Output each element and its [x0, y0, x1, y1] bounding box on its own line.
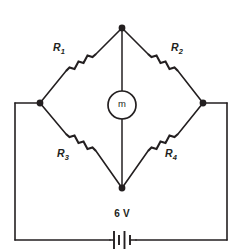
- resistor-label-r3: R3: [57, 148, 68, 159]
- wire-r1-to-left: [40, 71, 66, 103]
- wire-r3-to-bottom: [96, 151, 122, 188]
- resistor-symbol-r1: [66, 54, 96, 71]
- battery-voltage-label: 6 V: [102, 209, 142, 219]
- resistor-label-r2-base: R: [171, 41, 178, 53]
- node-dot-right: [200, 100, 207, 107]
- resistor-label-r3-subscript: 3: [65, 153, 69, 162]
- resistor-label-r3-base: R: [57, 147, 64, 159]
- resistor-label-r2-subscript: 2: [179, 47, 183, 56]
- resistor-label-r1-base: R: [53, 41, 60, 53]
- wire-left-to-r3: [40, 103, 66, 134]
- wire-r2-to-right: [178, 71, 203, 103]
- resistor-label-r4-base: R: [165, 147, 172, 159]
- wire-top-to-r2: [122, 28, 148, 54]
- resistor-symbol-r3: [66, 134, 96, 151]
- resistor-label-r1-subscript: 1: [61, 47, 65, 56]
- meter-label: m: [113, 99, 131, 109]
- resistor-label-r4: R4: [165, 148, 176, 159]
- node-dot-top: [119, 25, 126, 32]
- node-dot-bottom: [119, 185, 126, 192]
- wire-right-to-r4: [178, 103, 203, 134]
- resistor-symbol-r2: [148, 54, 178, 71]
- resistor-label-r2: R2: [171, 42, 182, 53]
- resistor-label-r1: R1: [53, 42, 64, 53]
- wire-top-to-r1: [96, 28, 122, 54]
- resistor-label-r4-subscript: 4: [173, 153, 177, 162]
- wire-r4-to-bottom: [122, 151, 148, 188]
- wheatstone-bridge-diagram: R1 R2 R3 R4 m 6 V: [0, 0, 242, 251]
- node-dot-left: [37, 100, 44, 107]
